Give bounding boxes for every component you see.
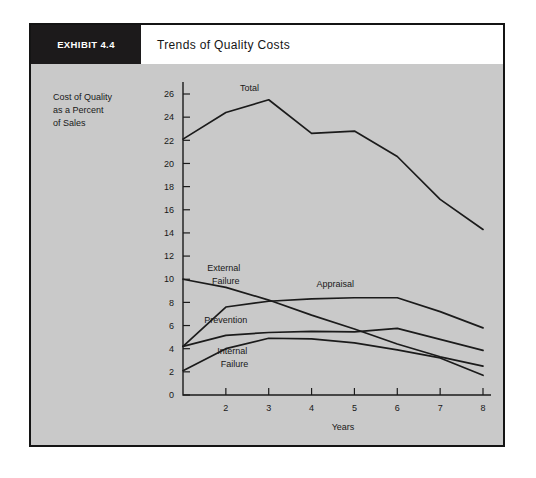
- y-tick-label: 4: [169, 344, 174, 354]
- x-tick-label: 8: [480, 403, 485, 413]
- y-tick-label: 26: [164, 89, 174, 99]
- series-inline-label: Total: [240, 83, 259, 93]
- y-axis-caption-line: as a Percent: [53, 105, 104, 115]
- y-tick-label: 20: [164, 159, 174, 169]
- exhibit-header: EXHIBIT 4.4 Trends of Quality Costs: [31, 25, 503, 64]
- y-axis-caption-line: of Sales: [53, 118, 86, 128]
- y-axis-caption-line: Cost of Quality: [53, 92, 113, 102]
- x-tick-label: 6: [395, 403, 400, 413]
- x-tick-label: 5: [352, 403, 357, 413]
- x-tick-label: 3: [266, 403, 271, 413]
- x-axis-ticks: 2345678: [223, 388, 485, 413]
- chart-panel: Cost of Qualityas a Percentof Sales 0246…: [31, 64, 503, 445]
- x-axis-title: Years: [332, 422, 355, 432]
- x-axis-title-text: Years: [332, 422, 355, 432]
- series-inline-label: External: [207, 263, 240, 273]
- series-inline-labels: TotalExternalFailureAppraisalPreventionI…: [204, 83, 354, 370]
- chart-series-lines: [183, 100, 483, 376]
- y-axis-ticks: 02468101214161820222426: [164, 89, 190, 400]
- y-tick-label: 2: [169, 367, 174, 377]
- y-tick-label: 24: [164, 112, 174, 122]
- series-line: [183, 338, 483, 375]
- exhibit-title: Trends of Quality Costs: [141, 25, 503, 64]
- y-tick-label: 8: [169, 298, 174, 308]
- exhibit-frame: EXHIBIT 4.4 Trends of Quality Costs Cost…: [29, 23, 505, 447]
- series-inline-label: Appraisal: [316, 279, 354, 289]
- y-tick-label: 16: [164, 205, 174, 215]
- y-tick-label: 14: [164, 228, 174, 238]
- series-inline-label: Failure: [212, 276, 240, 286]
- line-chart: Cost of Qualityas a Percentof Sales 0246…: [31, 64, 503, 445]
- series-line: [183, 100, 483, 230]
- x-tick-label: 4: [309, 403, 314, 413]
- y-tick-label: 0: [169, 390, 174, 400]
- x-tick-label: 7: [438, 403, 443, 413]
- x-tick-label: 2: [223, 403, 228, 413]
- y-tick-label: 22: [164, 136, 174, 146]
- y-axis-caption: Cost of Qualityas a Percentof Sales: [53, 92, 113, 128]
- y-tick-label: 10: [164, 274, 174, 284]
- series-inline-label: Prevention: [204, 315, 247, 325]
- y-tick-label: 12: [164, 251, 174, 261]
- exhibit-number-tag: EXHIBIT 4.4: [31, 25, 141, 64]
- y-tick-label: 6: [169, 321, 174, 331]
- series-inline-label: Failure: [221, 359, 249, 369]
- series-inline-label: Internal: [217, 346, 247, 356]
- y-tick-label: 18: [164, 182, 174, 192]
